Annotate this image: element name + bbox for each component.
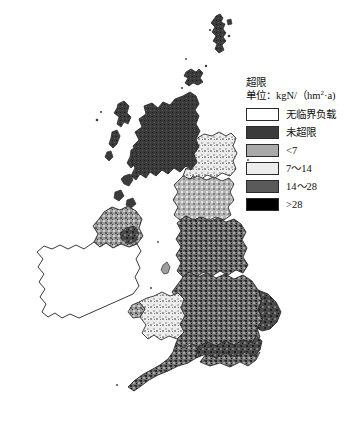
legend-units: 单位：kgN/（hm2·a) [246, 89, 356, 102]
region-wales [128, 292, 185, 340]
legend-label-14-28: 14～28 [286, 180, 317, 193]
map-legend: 超限 单位：kgN/（hm2·a) 无临界负载 未超限 <7 7～14 [246, 76, 356, 213]
region-isle-of-man [161, 262, 170, 274]
uk-ireland-map [0, 0, 359, 436]
region-outer-hebrides [96, 101, 131, 161]
legend-units-text: 单位：kgN/（hm [246, 90, 320, 101]
legend-entry-lt-7[interactable]: <7 [246, 141, 356, 159]
region-southwest-england [128, 343, 200, 391]
legend-swatch-7-14 [246, 162, 279, 175]
legend-entry-no-critical-load[interactable]: 无临界负载 [246, 105, 356, 123]
legend-entry-7-14[interactable]: 7～14 [246, 159, 356, 177]
region-east-anglia [257, 290, 281, 331]
legend-label-no-exceedance: 未超限 [286, 126, 316, 139]
legend-swatch-14-28 [246, 180, 279, 193]
legend-entry-14-28[interactable]: 14～28 [246, 177, 356, 195]
legend-label-lt-7: <7 [286, 144, 297, 157]
legend-label-no-critical-load: 无临界负载 [286, 108, 336, 121]
legend-label-7-14: 7～14 [286, 162, 312, 175]
map-canvas [0, 0, 359, 436]
legend-swatch-no-exceedance [246, 126, 279, 139]
region-shetland-islands [209, 14, 232, 53]
legend-label-gt-28: >28 [286, 198, 302, 211]
legend-entry-no-exceedance[interactable]: 未超限 [246, 123, 356, 141]
legend-title: 超限 [246, 76, 356, 89]
legend-entry-list: 无临界负载 未超限 <7 7～14 14～28 >28 [246, 105, 356, 213]
legend-units-tail: ·a) [324, 90, 336, 101]
region-scotland-southern [173, 176, 234, 221]
legend-entry-gt-28[interactable]: >28 [246, 195, 356, 213]
region-northern-england [176, 216, 248, 277]
legend-swatch-lt-7 [246, 144, 279, 157]
legend-swatch-no-critical-load [246, 108, 279, 121]
figure-root: 超限 单位：kgN/（hm2·a) 无临界负载 未超限 <7 7～14 [0, 0, 359, 436]
region-republic-of-ireland [37, 242, 141, 318]
region-northern-ireland [93, 206, 143, 248]
region-central-england [172, 272, 263, 348]
region-scotland-highlands [131, 92, 200, 180]
legend-swatch-gt-28 [246, 198, 279, 211]
region-orkney-islands [181, 65, 207, 89]
